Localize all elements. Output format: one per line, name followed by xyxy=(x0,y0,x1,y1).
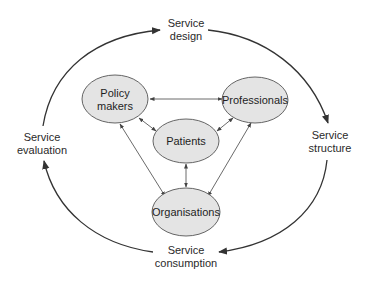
cycle-arrow-consumption-to-evaluation xyxy=(44,161,153,252)
stage-label-line1: Service xyxy=(155,244,217,257)
node-organisations: Organisations xyxy=(152,206,220,219)
node-policy-makers: Policy makers xyxy=(97,87,133,112)
stage-label-line1: Service xyxy=(309,129,352,142)
node-patients: Patients xyxy=(166,135,206,148)
stage-service-evaluation: Service evaluation xyxy=(17,131,67,156)
stage-service-structure: Service structure xyxy=(309,129,352,154)
node-label-line1: Patients xyxy=(166,135,206,148)
stage-label-line1: Service xyxy=(17,131,67,144)
node-label-line2: makers xyxy=(97,99,133,112)
stage-service-design: Service design xyxy=(168,17,205,42)
cycle-arrow-structure-to-consumption xyxy=(219,160,327,252)
edge-patients-professionals xyxy=(217,118,233,131)
node-label-line1: Professionals xyxy=(222,94,288,107)
stage-label-line2: consumption xyxy=(155,256,217,269)
node-label-line1: Organisations xyxy=(152,206,220,219)
edge-policy-patients xyxy=(139,118,156,131)
stage-service-consumption: Service consumption xyxy=(155,244,217,269)
stage-label-line2: design xyxy=(168,29,205,42)
node-professionals: Professionals xyxy=(222,94,288,107)
stage-label-line1: Service xyxy=(168,17,205,30)
stage-label-line2: structure xyxy=(309,141,352,154)
stage-label-line2: evaluation xyxy=(17,143,67,156)
node-label-line1: Policy xyxy=(97,87,133,100)
